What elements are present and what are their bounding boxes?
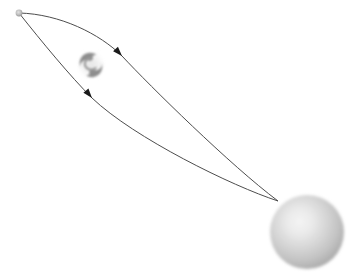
lower-light-ray — [19, 13, 278, 201]
lensing-mass-swirl — [77, 51, 105, 79]
lensing-diagram — [0, 0, 347, 272]
upper-light-ray — [19, 13, 278, 201]
light-source-point — [16, 10, 23, 17]
light-ray-group — [19, 13, 278, 201]
observer-sphere — [270, 195, 344, 269]
diagram-canvas — [0, 0, 347, 272]
sphere-body — [270, 195, 344, 269]
source-dot — [16, 10, 23, 17]
